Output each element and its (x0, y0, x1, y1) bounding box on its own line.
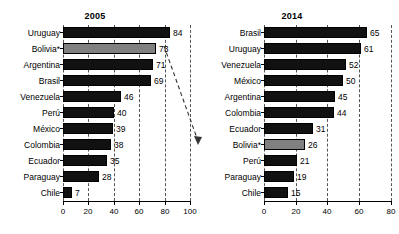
bar-value-label: 50 (346, 73, 355, 89)
bar-value-label: 28 (102, 169, 111, 185)
bar (264, 107, 334, 118)
bar-value-label: 84 (173, 25, 182, 41)
x-tick (327, 201, 328, 205)
chart-panel-2005: 2005 Uruguay 84 Bolivia* 73 (0, 0, 200, 234)
bar (63, 171, 99, 182)
bar-value-label: 71 (156, 57, 165, 73)
x-axis-line (63, 201, 190, 202)
x-tick (63, 201, 64, 205)
bar-value-label: 46 (124, 89, 133, 105)
bar (264, 155, 297, 166)
bar (63, 139, 111, 150)
category-label: Paraguay (24, 169, 60, 185)
category-label: México (33, 121, 60, 137)
category-label: Ecuador (229, 121, 261, 137)
category-label: Ecuador (28, 153, 60, 169)
x-tick (139, 201, 140, 205)
bar-value-label: 69 (154, 73, 163, 89)
bar-value-label: 26 (308, 137, 317, 153)
category-label: Bolivia* (32, 41, 60, 57)
category-label: Paraguay (225, 169, 261, 185)
bar (264, 43, 361, 54)
bar (264, 171, 294, 182)
category-label: Chile (41, 185, 60, 201)
category-label: Uruguay (28, 25, 60, 41)
category-label: Uruguay (229, 41, 261, 57)
category-label: Perú (243, 153, 261, 169)
x-tick (391, 201, 392, 205)
bar-highlighted (264, 139, 305, 150)
x-tick (190, 201, 191, 205)
bar (63, 107, 114, 118)
bar (63, 27, 170, 38)
x-tick-label: 80 (376, 207, 399, 217)
x-tick (359, 201, 360, 205)
bar (264, 187, 288, 198)
bar-value-label: 35 (110, 153, 119, 169)
bar-value-label: 44 (337, 105, 346, 121)
category-label: Perú (42, 105, 60, 121)
category-label: Brasil (240, 25, 261, 41)
x-tick-label: 0 (249, 207, 279, 217)
bar-value-label: 40 (117, 105, 126, 121)
bar-value-label: 31 (316, 121, 325, 137)
bar (264, 27, 367, 38)
category-label: Venezuela (221, 57, 261, 73)
bar-value-label: 19 (297, 169, 306, 185)
plot-area-2005: Uruguay 84 Bolivia* 73 Argentina 71 Bras… (63, 25, 190, 201)
bar-value-label: 38 (114, 137, 123, 153)
x-tick (264, 201, 265, 205)
bar (63, 59, 153, 70)
chart-figure: 2005 Uruguay 84 Bolivia* 73 (0, 0, 399, 234)
x-tick-label: 60 (344, 207, 374, 217)
bar (264, 91, 335, 102)
bar-value-label: 45 (338, 89, 347, 105)
bar (63, 75, 151, 86)
gridline-80 (391, 25, 392, 201)
category-label: Argentina (24, 57, 60, 73)
bar (63, 187, 72, 198)
panel-title-2014: 2014 (199, 11, 385, 21)
x-tick-label: 40 (312, 207, 342, 217)
bar-value-label: 61 (364, 41, 373, 57)
plot-area-2014: Brasil 65 Uruguay 61 Venezuela 52 México… (264, 25, 391, 201)
gridline-100 (190, 25, 191, 201)
bar-value-label: 52 (349, 57, 358, 73)
category-label: Colombia (24, 137, 60, 153)
bar-value-label: 21 (300, 153, 309, 169)
bar (264, 123, 313, 134)
category-label: Brasil (39, 73, 60, 89)
x-tick-label: 20 (281, 207, 311, 217)
bar (63, 155, 107, 166)
x-tick (114, 201, 115, 205)
category-label: México (234, 73, 261, 89)
bar-value-label: 73 (159, 41, 168, 57)
bar (264, 75, 343, 86)
bar (63, 91, 121, 102)
bar-highlighted (63, 43, 156, 54)
category-label: Bolivia* (233, 137, 261, 153)
category-label: Venezuela (20, 89, 60, 105)
category-label: Chile (242, 185, 261, 201)
bar (63, 123, 113, 134)
x-tick (165, 201, 166, 205)
bar-value-label: 7 (75, 185, 80, 201)
bar-value-label: 65 (370, 25, 379, 41)
panel-title-2005: 2005 (0, 11, 190, 21)
bar-value-label: 39 (116, 121, 125, 137)
bar-value-label: 15 (291, 185, 300, 201)
bar (264, 59, 346, 70)
category-label: Argentina (225, 89, 261, 105)
x-tick (88, 201, 89, 205)
x-tick (296, 201, 297, 205)
category-label: Colombia (225, 105, 261, 121)
